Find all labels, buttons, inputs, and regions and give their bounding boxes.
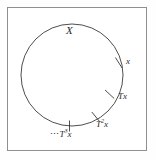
label-ellipsis: ⋯ bbox=[50, 129, 60, 139]
label-point-x: x bbox=[126, 57, 130, 66]
label-t3x-argument: x bbox=[68, 129, 72, 139]
label-t2x-argument: x bbox=[104, 119, 108, 129]
label-space-x: X bbox=[66, 25, 73, 36]
space-circle bbox=[21, 24, 123, 126]
label-point-t2x: T2x bbox=[96, 120, 108, 129]
tick-mark-tx bbox=[105, 90, 114, 99]
label-tx-argument: x bbox=[123, 91, 127, 101]
label-point-t3x: ⋯T3x bbox=[50, 130, 72, 139]
orbit-diagram-graphic bbox=[0, 0, 156, 160]
label-point-tx: Tx bbox=[118, 92, 127, 101]
figure-container: X x Tx T2x ⋯T3x bbox=[0, 0, 156, 160]
